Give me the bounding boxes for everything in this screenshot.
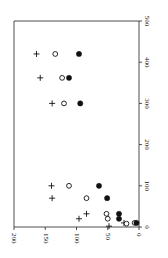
filled-circle-marker [66, 75, 71, 80]
x-tick-label: 100 [143, 181, 151, 192]
plus-marker [106, 223, 112, 229]
x-tick-label: 0 [143, 225, 151, 229]
open-circle-marker [60, 75, 65, 80]
y-tick-label: 200 [10, 233, 18, 244]
open-circle-marker [124, 221, 129, 226]
x-tick-label: 200 [143, 139, 151, 150]
filled-circle-marker [134, 220, 139, 225]
y-tick-label: 50 [104, 233, 112, 241]
open-circle-marker [67, 183, 72, 188]
plot-frame [14, 21, 139, 227]
y-tick-label: 150 [42, 233, 50, 244]
open-circle-marker [104, 211, 109, 216]
x-tick-label: 400 [143, 57, 151, 68]
y-tick-label: 0 [135, 233, 143, 237]
filled-circle-marker [76, 51, 81, 56]
plus-marker [84, 211, 90, 217]
x-axis: 0100200300400500 [139, 16, 151, 230]
scatter-chart: 0100200300400500 050100150200 [0, 0, 168, 258]
plus-marker [49, 195, 55, 201]
filled-circle-marker [78, 101, 83, 106]
plus-marker [76, 216, 82, 222]
x-tick-label: 500 [143, 16, 151, 27]
plus-marker [37, 75, 43, 81]
y-axis: 050100150200 [10, 227, 143, 244]
filled-circle-marker [96, 183, 101, 188]
open-circle-marker [53, 52, 58, 57]
x-tick-label: 300 [143, 98, 151, 109]
open-circle-marker [105, 216, 110, 221]
filled-circle-marker [116, 216, 121, 221]
filled-circle-marker [105, 196, 110, 201]
data-points [34, 51, 140, 229]
plus-marker [49, 183, 55, 189]
y-tick-label: 100 [73, 233, 81, 244]
open-circle-marker [62, 101, 67, 106]
open-circle-marker [84, 196, 89, 201]
plus-marker [34, 51, 40, 57]
filled-circle-marker [116, 211, 121, 216]
plus-marker [49, 100, 55, 106]
